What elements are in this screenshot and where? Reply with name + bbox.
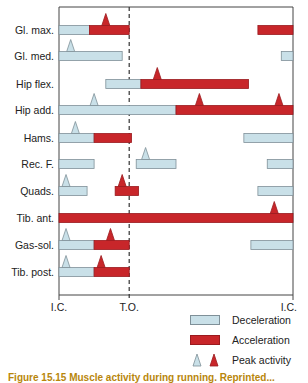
chart-row: Gas-sol. [15, 229, 293, 252]
acceleration-bar [115, 187, 138, 196]
acceleration-peak-icon [195, 94, 203, 106]
deceleration-swatch [190, 315, 220, 325]
legend-label-deceleration: Deceleration [232, 314, 291, 326]
acceleration-bar [94, 268, 129, 277]
chart-row: Hip add. [15, 94, 293, 117]
deceleration-peak-icon [67, 40, 75, 52]
row-label: Quads. [20, 185, 54, 197]
deceleration-bar [59, 187, 87, 196]
chart-row: Tib. ant. [16, 202, 293, 225]
acceleration-bar [176, 106, 293, 115]
deceleration-peak-icon [142, 148, 150, 160]
deceleration-bar [258, 187, 293, 196]
row-label: Gas-sol. [15, 239, 54, 251]
deceleration-bar [59, 268, 94, 277]
chart-row: Rec. F. [21, 148, 293, 171]
acceleration-bar [59, 214, 293, 223]
legend-item-acceleration: Acceleration [190, 332, 220, 348]
legend-label-peak: Peak activity [232, 354, 291, 366]
deceleration-bar [281, 52, 293, 61]
peak-triangles-icon [190, 353, 230, 367]
chart-rows: Gl. max.Gl. med.Hip flex.Hip add.Hams.Re… [11, 14, 293, 279]
acceleration-peak-icon [270, 202, 278, 214]
deceleration-bar [59, 134, 94, 143]
row-label: Gl. max. [15, 24, 54, 36]
chart-row: Gl. med. [14, 40, 293, 63]
deceleration-bar [244, 134, 293, 143]
deceleration-bar [136, 160, 176, 169]
row-label: Tib. post. [11, 266, 54, 278]
deceleration-peak-icon [71, 122, 79, 134]
deceleration-bar [106, 80, 141, 89]
row-label: Hip add. [15, 104, 54, 116]
deceleration-peak-icon [90, 94, 98, 106]
deceleration-peak-icon [62, 175, 70, 187]
deceleration-bar [59, 106, 176, 115]
chart-row: Quads. [20, 175, 293, 198]
x-tick-label: T.O. [120, 301, 139, 313]
acceleration-bar [141, 80, 249, 89]
row-label: Gl. med. [14, 50, 54, 62]
acceleration-peak-icon [275, 94, 283, 106]
deceleration-bar [59, 160, 94, 169]
acceleration-bar [89, 26, 129, 35]
acceleration-peak-icon [97, 256, 105, 268]
deceleration-bar [267, 160, 293, 169]
deceleration-bar [59, 241, 94, 250]
row-label: Hip flex. [16, 78, 54, 90]
x-tick-label: I.C. [51, 301, 67, 313]
chart-row: Hams. [24, 122, 293, 145]
deceleration-bar [251, 241, 293, 250]
acceleration-bar [94, 134, 131, 143]
acceleration-peak-icon [153, 68, 161, 80]
deceleration-peak-icon [193, 354, 201, 366]
x-tick-label: I.C. [281, 301, 297, 313]
chart-row: Gl. max. [15, 14, 293, 37]
acceleration-peak-icon [118, 175, 126, 187]
deceleration-peak-icon [62, 256, 70, 268]
row-label: Hams. [24, 132, 54, 144]
legend-item-deceleration: Deceleration [190, 312, 220, 328]
deceleration-bar [59, 52, 122, 61]
acceleration-peak-icon [210, 354, 218, 366]
acceleration-bar [258, 26, 293, 35]
legend-label-acceleration: Acceleration [232, 334, 290, 346]
acceleration-bar [94, 241, 129, 250]
x-axis-ticks: I.C.T.O.I.C. [51, 301, 297, 313]
plot-frame [59, 7, 293, 300]
chart-row: Tib. post. [11, 256, 129, 279]
row-label: Rec. F. [21, 158, 54, 170]
figure-caption: Figure 15.15 Muscle activity during runn… [8, 372, 275, 383]
row-label: Tib. ant. [16, 212, 54, 224]
legend-item-peak: Peak activity [190, 352, 308, 368]
acceleration-peak-icon [102, 14, 110, 26]
acceleration-swatch [190, 335, 220, 345]
chart-row: Hip flex. [16, 68, 248, 91]
deceleration-peak-icon [62, 229, 70, 241]
deceleration-bar [59, 26, 89, 35]
acceleration-peak-icon [106, 229, 114, 241]
